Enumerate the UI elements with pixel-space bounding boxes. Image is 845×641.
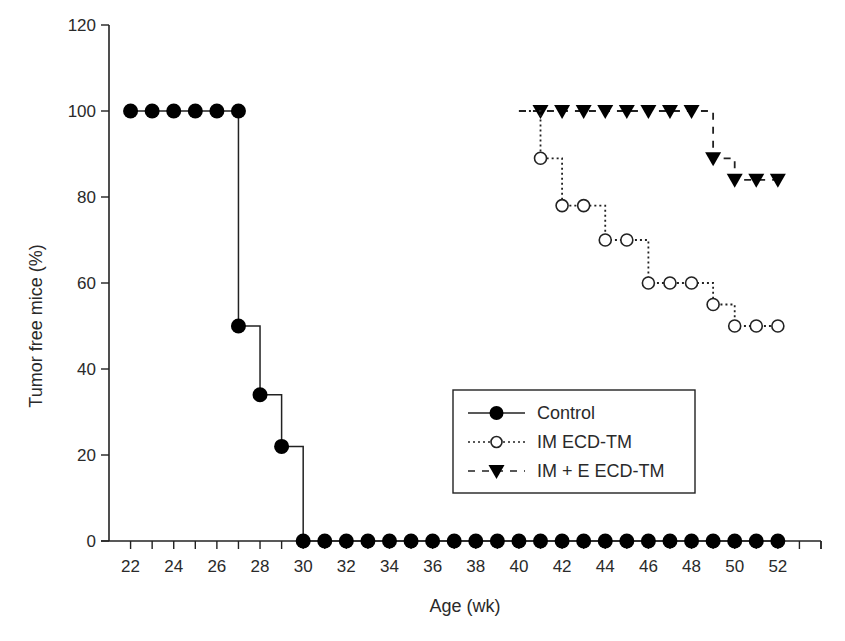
filled-circle-marker	[231, 104, 246, 119]
survival-chart: 0204060801001202224262830323436384042444…	[0, 0, 845, 641]
triangle-down-marker	[619, 105, 635, 119]
x-tick-label: 24	[164, 557, 183, 576]
open-circle-marker	[599, 234, 611, 246]
x-tick-label: 44	[596, 557, 615, 576]
filled-circle-marker	[145, 104, 160, 119]
filled-circle-marker	[382, 534, 397, 549]
triangle-down-marker	[554, 105, 570, 119]
legend-label: Control	[537, 403, 595, 423]
filled-circle-marker	[619, 534, 634, 549]
filled-circle-marker	[555, 534, 570, 549]
x-tick-label: 34	[380, 557, 399, 576]
filled-circle-marker	[209, 104, 224, 119]
filled-circle-marker	[360, 534, 375, 549]
legend: ControlIM ECD-TMIM + E ECD-TM	[453, 390, 695, 493]
series-im-ecd-tm	[519, 111, 784, 332]
x-axis-title: Age (wk)	[429, 596, 500, 616]
open-circle-marker	[578, 200, 590, 212]
filled-circle-marker	[339, 534, 354, 549]
filled-circle-marker	[317, 534, 332, 549]
triangle-down-marker	[533, 105, 549, 119]
series-im-e-ecd-tm	[519, 105, 786, 188]
series-line	[519, 111, 778, 180]
filled-circle-marker	[231, 319, 246, 334]
y-tick-label: 60	[77, 274, 96, 293]
filled-circle-marker	[253, 387, 268, 402]
open-circle-marker	[491, 437, 502, 448]
filled-circle-marker	[490, 534, 505, 549]
open-circle-marker	[664, 277, 676, 289]
y-axis-title: Tumor free mice (%)	[26, 244, 46, 407]
filled-circle-marker	[166, 104, 181, 119]
triangle-down-marker	[705, 152, 721, 166]
x-tick-label: 42	[553, 557, 572, 576]
filled-circle-marker	[447, 534, 462, 549]
filled-circle-marker	[123, 104, 138, 119]
x-tick-label: 22	[121, 557, 140, 576]
y-tick-label: 0	[87, 532, 96, 551]
filled-circle-marker	[533, 534, 548, 549]
x-tick-label: 28	[251, 557, 270, 576]
x-tick-label: 38	[466, 557, 485, 576]
open-circle-marker	[707, 299, 719, 311]
filled-circle-marker	[274, 439, 289, 454]
filled-circle-marker	[641, 534, 656, 549]
open-circle-marker	[556, 200, 568, 212]
open-circle-marker	[772, 320, 784, 332]
y-tick-label: 80	[77, 188, 96, 207]
filled-circle-marker	[684, 534, 699, 549]
filled-circle-marker	[490, 406, 504, 420]
y-tick-label: 40	[77, 360, 96, 379]
filled-circle-marker	[598, 534, 613, 549]
x-tick-label: 46	[639, 557, 658, 576]
open-circle-marker	[535, 152, 547, 164]
open-circle-marker	[686, 277, 698, 289]
x-tick-label: 32	[337, 557, 356, 576]
triangle-down-marker	[662, 105, 678, 119]
legend-label: IM + E ECD-TM	[537, 461, 665, 481]
filled-circle-marker	[188, 104, 203, 119]
triangle-down-marker	[597, 105, 613, 119]
y-tick-label: 120	[68, 16, 96, 35]
axes: 0204060801001202224262830323436384042444…	[68, 16, 821, 576]
y-tick-label: 100	[68, 102, 96, 121]
filled-circle-marker	[511, 534, 526, 549]
x-tick-label: 50	[725, 557, 744, 576]
legend-label: IM ECD-TM	[537, 432, 632, 452]
y-tick-label: 20	[77, 446, 96, 465]
filled-circle-marker	[727, 534, 742, 549]
series-line	[519, 111, 778, 326]
open-circle-marker	[642, 277, 654, 289]
x-tick-label: 30	[294, 557, 313, 576]
filled-circle-marker	[468, 534, 483, 549]
x-tick-label: 26	[207, 557, 226, 576]
filled-circle-marker	[662, 534, 677, 549]
x-tick-label: 48	[682, 557, 701, 576]
triangle-down-marker	[770, 174, 786, 188]
triangle-down-marker	[640, 105, 656, 119]
filled-circle-marker	[296, 534, 311, 549]
triangle-down-marker	[748, 174, 764, 188]
filled-circle-marker	[404, 534, 419, 549]
triangle-down-marker	[576, 105, 592, 119]
triangle-down-marker	[727, 174, 743, 188]
x-tick-label: 36	[423, 557, 442, 576]
x-tick-label: 40	[509, 557, 528, 576]
filled-circle-marker	[706, 534, 721, 549]
filled-circle-marker	[576, 534, 591, 549]
triangle-down-marker	[684, 105, 700, 119]
open-circle-marker	[621, 234, 633, 246]
x-tick-label: 52	[768, 557, 787, 576]
filled-circle-marker	[749, 534, 764, 549]
chart-canvas: 0204060801001202224262830323436384042444…	[0, 0, 845, 641]
filled-circle-marker	[770, 534, 785, 549]
filled-circle-marker	[425, 534, 440, 549]
open-circle-marker	[729, 320, 741, 332]
open-circle-marker	[750, 320, 762, 332]
